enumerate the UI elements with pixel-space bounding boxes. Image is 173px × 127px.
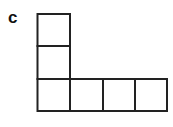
square-cell	[70, 79, 103, 111]
square-cell	[38, 46, 71, 79]
square-cell	[38, 79, 71, 111]
square-cell	[38, 14, 71, 46]
square-cell	[135, 79, 167, 111]
l-shape-diagram	[0, 0, 173, 127]
square-cell	[103, 79, 135, 111]
